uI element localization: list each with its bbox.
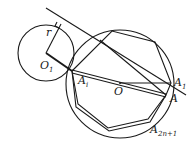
point-o [119, 82, 121, 84]
label-a: A [169, 92, 178, 105]
label-r: r [46, 26, 52, 39]
label-a2n1: A2n+1 [149, 123, 177, 138]
label-a1: A1 [173, 76, 186, 91]
geometry-diagram: r O1 Ai O A1 A A2n+1 [0, 0, 192, 147]
segment-top-a [100, 40, 166, 95]
tangent-line [46, 8, 186, 95]
label-o: O [114, 85, 123, 98]
label-o1: O1 [40, 59, 54, 74]
